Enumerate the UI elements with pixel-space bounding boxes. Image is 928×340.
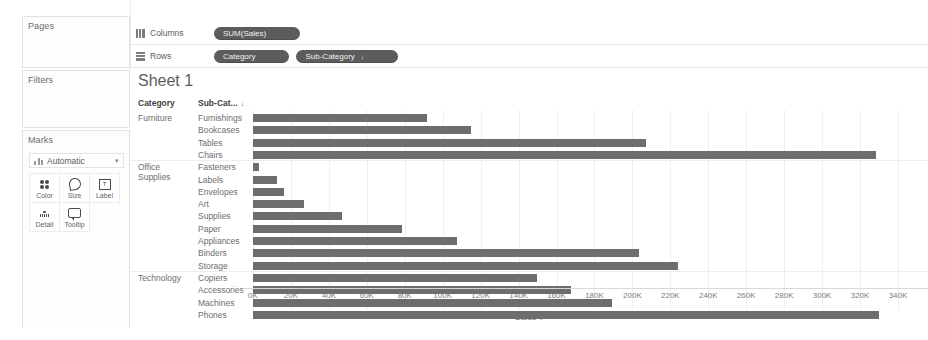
x-axis-tick-label: 300K	[813, 291, 832, 300]
pill-category-label: Category	[223, 52, 255, 61]
bar-mark[interactable]	[253, 176, 277, 184]
marks-color-button[interactable]: Color	[29, 173, 60, 203]
grid-line	[898, 110, 899, 310]
marks-color-label: Color	[36, 192, 53, 199]
marks-card-title: Marks	[28, 135, 53, 145]
x-axis-tick-label: 100K	[433, 291, 452, 300]
tooltip-icon	[68, 207, 81, 220]
bar-mark[interactable]	[253, 200, 304, 208]
row-header-subcategory[interactable]: Fasteners	[198, 162, 236, 172]
row-header-subcategory[interactable]: Tables	[198, 138, 223, 148]
marks-size-label: Size	[68, 192, 82, 199]
rows-icon	[136, 52, 145, 61]
grid-line	[708, 110, 709, 310]
row-header-subcategory[interactable]: Appliances	[198, 236, 240, 246]
x-axis-tick-label: 200K	[623, 291, 642, 300]
x-axis-tick-label: 140K	[509, 291, 528, 300]
row-header-subcategory[interactable]: Binders	[198, 248, 227, 258]
bar-mark[interactable]	[253, 139, 646, 147]
x-axis-title-label: Sales	[515, 312, 536, 322]
chevron-down-icon: ▾	[115, 157, 119, 165]
row-header-subcategory[interactable]: Art	[198, 199, 209, 209]
x-axis-tick-label: 220K	[661, 291, 680, 300]
x-axis-line	[243, 288, 928, 289]
row-header-category[interactable]: Furniture	[138, 113, 172, 123]
columns-shelf[interactable]: Columns SUM(Sales)	[130, 22, 928, 45]
columns-shelf-name: Columns	[130, 28, 214, 38]
marks-button-row: Color Size T Label	[29, 173, 124, 202]
row-header-subcategory[interactable]: Copiers	[198, 273, 227, 283]
category-separator	[130, 271, 928, 272]
pill-sum-sales[interactable]: SUM(Sales)	[214, 27, 300, 40]
pages-card[interactable]: Pages	[22, 16, 130, 68]
pill-sum-sales-label: SUM(Sales)	[223, 29, 266, 38]
bar-mark[interactable]	[253, 126, 471, 134]
left-sidebar: Pages Filters Marks Automatic ▾ Color	[22, 8, 130, 328]
marks-label-button[interactable]: T Label	[89, 173, 120, 203]
bar-mark[interactable]	[253, 274, 537, 282]
columns-shelf-label: Columns	[150, 28, 184, 38]
worksheet: Sheet 1 Category Sub-Cat...↓ FurnitureFu…	[130, 70, 928, 338]
size-icon	[69, 178, 81, 191]
bar-mark[interactable]	[253, 262, 678, 270]
tableau-workspace: Pages Filters Marks Automatic ▾ Color	[0, 0, 928, 340]
row-header-subcategory[interactable]: Storage	[198, 261, 228, 271]
grid-line	[784, 110, 785, 310]
marks-detail-button[interactable]: Detail	[29, 202, 60, 232]
bar-mark[interactable]	[253, 163, 259, 171]
bar-mark-icon	[34, 156, 43, 165]
bar-mark[interactable]	[253, 188, 284, 196]
rows-shelf[interactable]: Rows Category Sub-Category ↓	[130, 45, 928, 68]
grid-line	[822, 110, 823, 310]
bar-mark[interactable]	[253, 151, 876, 159]
row-header-subcategory[interactable]: Paper	[198, 224, 221, 234]
x-axis-tick-label: 120K	[471, 291, 490, 300]
row-header-category[interactable]: Supplies	[138, 172, 171, 182]
column-header-subcategory[interactable]: Sub-Cat...↓	[198, 98, 244, 108]
marks-detail-label: Detail	[36, 221, 54, 228]
x-axis-title[interactable]: Sales↓	[130, 312, 928, 322]
column-header-category[interactable]: Category	[138, 98, 175, 108]
column-header-subcategory-label: Sub-Cat...	[198, 98, 238, 108]
filters-card-title: Filters	[28, 75, 53, 85]
x-axis-tick-label: 60K	[360, 291, 374, 300]
row-header-subcategory[interactable]: Envelopes	[198, 187, 238, 197]
x-axis-tick-label: 180K	[585, 291, 604, 300]
x-axis: 0K20K40K60K80K100K120K140K160K180K200K22…	[130, 288, 928, 338]
bar-mark[interactable]	[253, 249, 639, 257]
row-header-subcategory[interactable]: Labels	[198, 175, 223, 185]
row-header-subcategory[interactable]: Chairs	[198, 150, 223, 160]
marks-size-button[interactable]: Size	[59, 173, 90, 203]
pill-category[interactable]: Category	[214, 50, 289, 63]
row-header-category[interactable]: Office	[138, 162, 160, 172]
x-axis-tick-label: 0K	[248, 291, 258, 300]
page-title: Sheet 1	[138, 72, 193, 90]
pill-sub-category[interactable]: Sub-Category ↓	[296, 50, 398, 63]
bar-mark[interactable]	[253, 225, 402, 233]
row-header-category[interactable]: Technology	[138, 273, 181, 283]
bar-mark[interactable]	[253, 212, 342, 220]
bar-mark[interactable]	[253, 237, 457, 245]
marks-tooltip-label: Tooltip	[64, 221, 84, 228]
pill-sub-category-label: Sub-Category	[305, 52, 354, 61]
x-axis-tick-label: 260K	[737, 291, 756, 300]
rows-shelf-label: Rows	[150, 51, 171, 61]
shelf-area: Columns SUM(Sales) Rows Category Sub-Cat…	[130, 22, 928, 68]
row-header-subcategory[interactable]: Furnishings	[198, 113, 242, 123]
mark-type-label: Automatic	[47, 156, 115, 166]
category-separator	[130, 160, 928, 161]
mark-type-dropdown[interactable]: Automatic ▾	[29, 153, 124, 168]
marks-card[interactable]: Marks Automatic ▾ Color Size	[22, 130, 130, 328]
bar-mark[interactable]	[253, 114, 427, 122]
row-header-subcategory[interactable]: Bookcases	[198, 125, 240, 135]
color-icon	[40, 178, 50, 191]
row-header-subcategory[interactable]: Supplies	[198, 211, 231, 221]
marks-tooltip-button[interactable]: Tooltip	[59, 202, 90, 232]
filters-card[interactable]: Filters	[22, 70, 130, 128]
sort-descending-icon: ↓	[241, 100, 245, 107]
chart-plot-area: FurnitureFurnishingsBookcasesTablesChair…	[130, 110, 928, 310]
x-axis-tick-label: 20K	[284, 291, 298, 300]
rows-shelf-name: Rows	[130, 51, 214, 61]
x-axis-tick-label: 160K	[547, 291, 566, 300]
grid-line	[860, 110, 861, 310]
